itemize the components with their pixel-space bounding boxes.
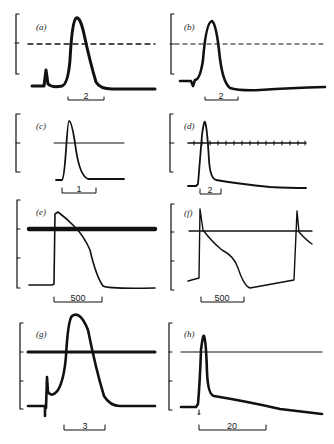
panel-label-h: (h) bbox=[184, 329, 195, 339]
scale-bar-g: 3 bbox=[82, 421, 87, 431]
scale-bar-h: 20 bbox=[227, 421, 237, 431]
panel-h bbox=[169, 323, 322, 430]
panel-label-b: (b) bbox=[184, 22, 195, 32]
panel-f bbox=[171, 204, 312, 302]
panel-label-d: (d) bbox=[184, 121, 195, 131]
scale-bar-d: 2 bbox=[207, 185, 212, 195]
figure-canvas: (a) (b) (c) (d) (e) (f) (g) (h) 2 2 1 2 … bbox=[0, 0, 334, 444]
panel-label-c: (c) bbox=[36, 121, 46, 131]
scale-bar-a: 2 bbox=[83, 91, 88, 101]
panel-label-g: (g) bbox=[36, 329, 47, 339]
scale-bar-c: 1 bbox=[76, 184, 81, 194]
scale-bar-b: 2 bbox=[218, 91, 223, 101]
panel-label-e: (e) bbox=[36, 207, 46, 217]
panel-label-a: (a) bbox=[36, 22, 47, 32]
scale-bar-f: 500 bbox=[214, 293, 229, 303]
panel-label-f: (f) bbox=[184, 208, 193, 218]
panel-c bbox=[16, 114, 124, 193]
scale-bar-e: 500 bbox=[70, 293, 85, 303]
